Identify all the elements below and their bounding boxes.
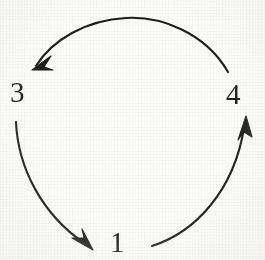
- node-label-4: 4: [226, 80, 241, 109]
- arrow-three-to-one-curve: [16, 122, 84, 243]
- arrow-three-to-one: [16, 122, 93, 250]
- diagram-canvas: [0, 0, 265, 260]
- arrow-three-to-one-head: [72, 229, 93, 250]
- arrow-one-to-four: [152, 116, 252, 246]
- cycle-diagram-figure: 3 4 1: [0, 0, 265, 260]
- arrow-one-to-four-curve: [152, 128, 244, 246]
- node-label-3: 3: [10, 78, 25, 107]
- arrow-one-to-four-head: [238, 116, 252, 140]
- arrow-four-to-three-curve: [36, 18, 228, 72]
- arrow-four-to-three: [32, 18, 228, 72]
- node-label-1: 1: [110, 228, 125, 257]
